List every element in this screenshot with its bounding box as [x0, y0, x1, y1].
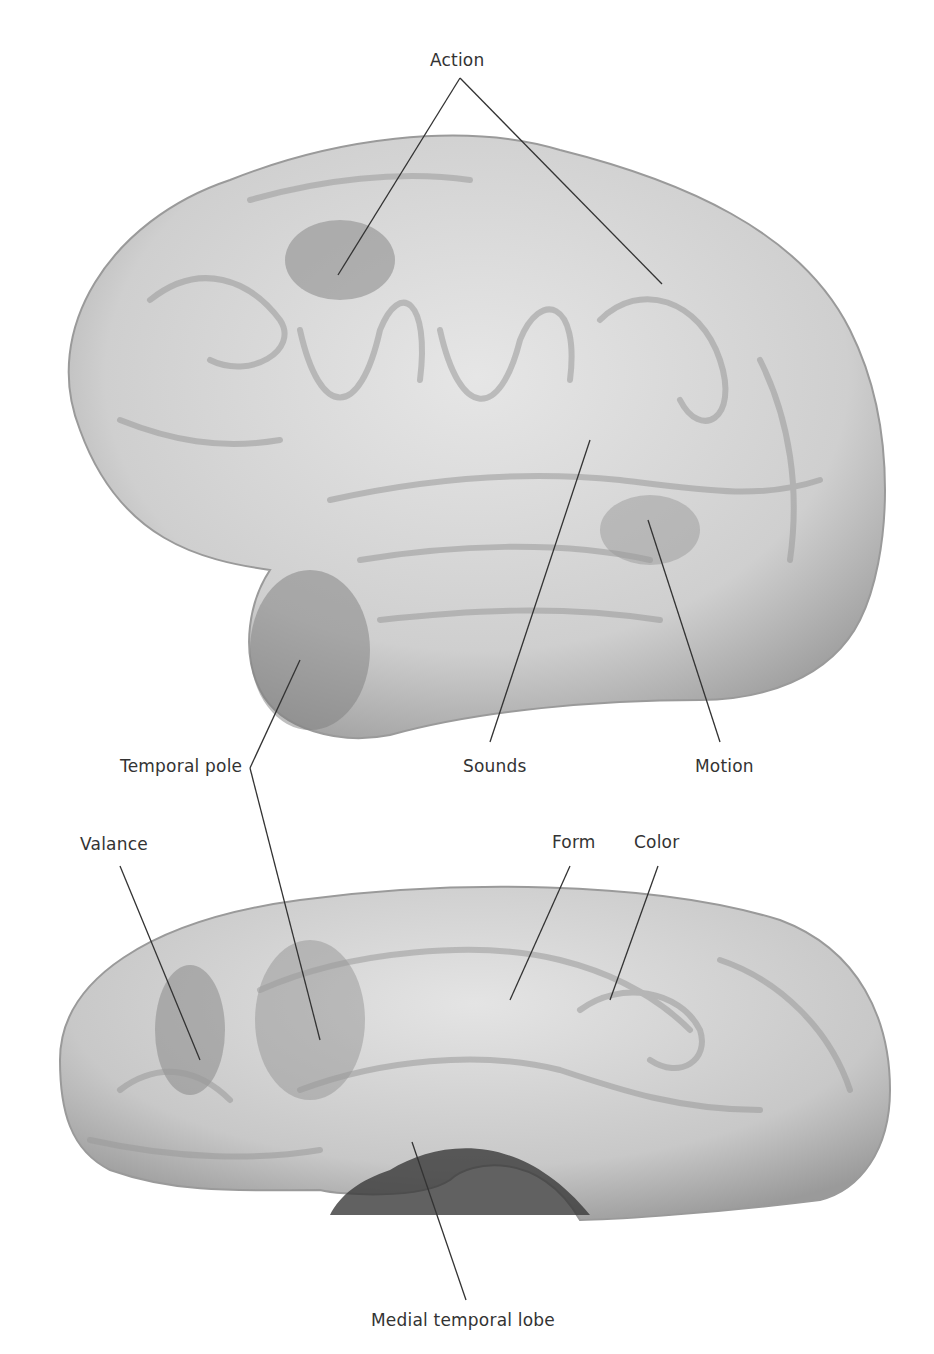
label-medial-temporal-lobe: Medial temporal lobe — [371, 1310, 555, 1330]
temporal-pole-region — [250, 570, 370, 730]
brain-illustration — [0, 0, 934, 1354]
label-motion: Motion — [695, 756, 754, 776]
label-sounds: Sounds — [463, 756, 527, 776]
action-region — [285, 220, 395, 300]
label-valance: Valance — [80, 834, 148, 854]
label-temporal-pole: Temporal pole — [120, 756, 242, 776]
label-form: Form — [552, 832, 596, 852]
lateral-brain-view — [69, 136, 885, 738]
label-color: Color — [634, 832, 679, 852]
brain-figure: Action Temporal pole Sounds Motion Valan… — [0, 0, 934, 1354]
label-action: Action — [430, 50, 484, 70]
medial-brain-view — [60, 887, 890, 1220]
